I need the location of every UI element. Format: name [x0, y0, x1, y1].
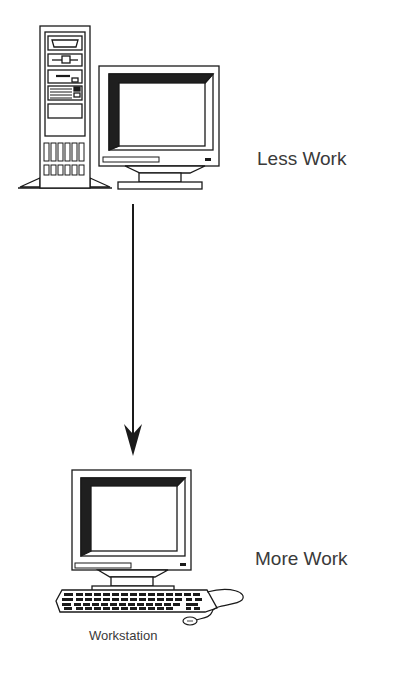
- bottom-node-label: More Work: [255, 548, 348, 570]
- workstation-caption: Workstation: [89, 628, 157, 643]
- tower-computer-icon: [18, 26, 112, 188]
- diagram-canvas: [0, 0, 393, 673]
- arrow-down-icon: [124, 204, 142, 456]
- keyboard-icon: [56, 590, 217, 612]
- monitor-icon: [99, 66, 219, 189]
- top-node-label: Less Work: [257, 148, 346, 170]
- workstation-monitor-icon: [72, 470, 191, 591]
